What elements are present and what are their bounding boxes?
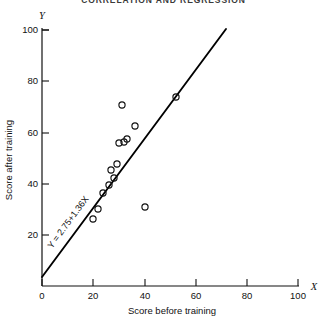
x-ticklabel-60: 60 <box>191 290 202 301</box>
y-ticklabel-20: 20 <box>27 229 38 240</box>
y-ticklabel-80: 80 <box>27 75 38 86</box>
data-point <box>132 123 138 129</box>
data-point <box>142 204 148 210</box>
figure-container: CORRELATION AND REGRESSION 100 80 60 40 … <box>0 0 327 321</box>
data-point <box>95 206 101 212</box>
x-axis-title: Score before training <box>128 305 216 316</box>
x-ticklabel-80: 80 <box>242 290 253 301</box>
x-axis-symbol: X <box>310 281 318 292</box>
y-ticklabel-60: 60 <box>27 127 38 138</box>
data-point <box>108 167 114 173</box>
x-ticklabel-20: 20 <box>88 290 99 301</box>
data-points-group <box>90 94 179 222</box>
y-axis-title: Score after training <box>3 120 14 200</box>
y-ticklabel-100: 100 <box>22 24 38 35</box>
data-point <box>114 161 120 167</box>
y-ticklabel-40: 40 <box>27 178 38 189</box>
y-axis-symbol: Y <box>39 10 46 21</box>
x-ticklabel-40: 40 <box>140 290 151 301</box>
data-point <box>119 102 125 108</box>
x-ticklabel-100: 100 <box>290 290 306 301</box>
regression-line <box>42 29 226 277</box>
data-point <box>90 216 96 222</box>
scatter-plot: 100 80 60 40 20 0 20 40 60 80 100 Y X Sc… <box>0 0 327 321</box>
x-ticklabel-0: 0 <box>39 290 44 301</box>
